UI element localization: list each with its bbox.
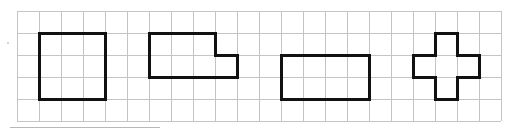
square-shape [40,34,106,100]
cross-shape [414,34,480,100]
stray-dot [7,42,9,44]
grid-diagram [0,0,512,129]
grid-lines [17,11,502,122]
